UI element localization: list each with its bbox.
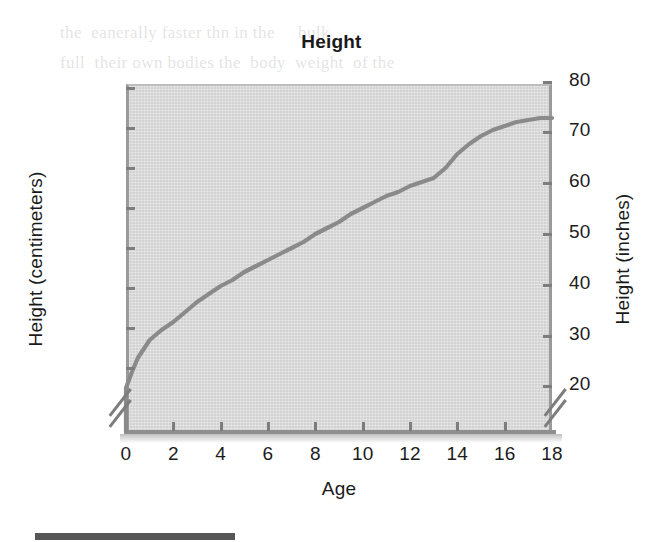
x-tick-label: 6 bbox=[243, 443, 293, 465]
y-tick-label-right: 20 bbox=[569, 373, 629, 395]
x-tick-mark bbox=[456, 422, 459, 431]
x-tick-label: 18 bbox=[527, 443, 577, 465]
x-tick-label: 4 bbox=[196, 443, 246, 465]
y-tick-mark-right bbox=[543, 81, 552, 84]
y-tick-mark-right bbox=[543, 131, 552, 134]
y-tick-label-right: 40 bbox=[569, 272, 629, 294]
y-tick-mark-right bbox=[543, 182, 552, 185]
y-tick-mark-left bbox=[126, 167, 135, 170]
x-tick-mark bbox=[172, 422, 175, 431]
y-tick-mark-left bbox=[126, 87, 135, 90]
y-tick-label-right: 50 bbox=[569, 221, 629, 243]
y-tick-mark-left bbox=[126, 207, 135, 210]
y-tick-mark-right bbox=[543, 335, 552, 338]
x-tick-mark bbox=[409, 422, 412, 431]
x-tick-mark bbox=[220, 422, 223, 431]
x-tick-mark bbox=[314, 422, 317, 431]
x-tick-mark bbox=[362, 422, 365, 431]
y-tick-label-right: 60 bbox=[569, 170, 629, 192]
y-tick-label-right: 80 bbox=[569, 69, 629, 91]
x-tick-label: 2 bbox=[148, 443, 198, 465]
y-tick-mark-right bbox=[543, 233, 552, 236]
y-tick-label-right: 70 bbox=[569, 119, 629, 141]
x-tick-label: 14 bbox=[432, 443, 482, 465]
x-tick-label: 10 bbox=[338, 443, 388, 465]
y-tick-mark-left bbox=[126, 247, 135, 250]
x-axis-label: Age bbox=[126, 478, 552, 500]
y-tick-mark-right bbox=[543, 385, 552, 388]
x-tick-mark bbox=[504, 422, 507, 431]
y-tick-mark-right bbox=[543, 284, 552, 287]
x-tick-label: 12 bbox=[385, 443, 435, 465]
x-tick-label: 16 bbox=[480, 443, 530, 465]
y-tick-mark-left bbox=[126, 127, 135, 130]
x-tick-label: 0 bbox=[101, 443, 151, 465]
page-edge-bar bbox=[35, 533, 235, 540]
y-tick-mark-left bbox=[126, 327, 135, 330]
x-tick-label: 8 bbox=[290, 443, 340, 465]
y-tick-label-right: 30 bbox=[569, 323, 629, 345]
y-tick-mark-left bbox=[126, 367, 135, 370]
y-axis-label-left: Height (centimeters) bbox=[25, 119, 47, 399]
y-axis-label-right: Height (inches) bbox=[612, 119, 634, 399]
x-tick-mark bbox=[267, 422, 270, 431]
y-tick-mark-left bbox=[126, 287, 135, 290]
